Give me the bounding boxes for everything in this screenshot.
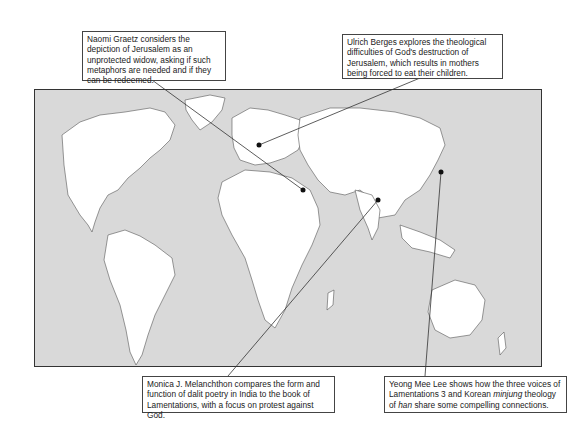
australia-landmass	[428, 280, 485, 338]
leader-line-lee	[425, 172, 441, 376]
north-america-landmass	[62, 108, 175, 232]
africa-landmass	[218, 170, 320, 328]
marker-india	[376, 198, 381, 203]
greenland-landmass	[185, 95, 225, 130]
marker-germany	[257, 143, 262, 148]
marker-korea	[439, 170, 444, 175]
callout-graetz: Naomi Graetz considers the depiction of …	[82, 31, 226, 81]
callout-lee: Yeong Mee Lee shows how the three voices…	[384, 376, 567, 413]
callout-melanchthon: Monica J. Melanchthon compares the form …	[142, 376, 335, 413]
callout-berges: Ulrich Berges explores the theological d…	[342, 34, 503, 79]
marker-jerusalem	[301, 188, 306, 193]
southeast-asia-islands	[400, 225, 455, 258]
callout-graetz-text: Naomi Graetz considers the depiction of …	[87, 34, 211, 85]
new-zealand-landmass	[498, 332, 506, 355]
south-america-landmass	[104, 230, 175, 365]
callout-lee-minjung: minjung	[493, 389, 522, 399]
europe-landmass	[232, 108, 305, 165]
callout-berges-text: Ulrich Berges explores the theological d…	[347, 37, 486, 78]
callout-lee-han: han	[398, 400, 412, 410]
callout-lee-text-3: share some compelling connections.	[412, 400, 549, 410]
madagascar-landmass	[327, 290, 334, 310]
